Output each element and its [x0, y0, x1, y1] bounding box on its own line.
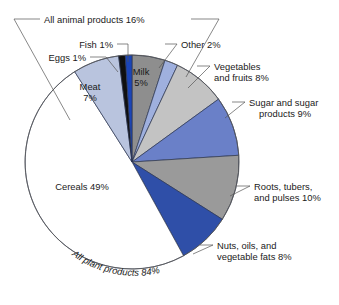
pie-chart-svg: All animal products 16% Eggs 1% Fish 1% … [0, 0, 339, 305]
label-sugar-line1: Sugar and sugar [249, 97, 318, 108]
label-nuts-line2: vegetable fats 8% [217, 251, 292, 262]
pie-slices-group [25, 55, 239, 269]
label-all-animal-products: All animal products 16% [44, 14, 145, 25]
label-fish: Fish 1% [79, 39, 113, 50]
label-milk-line1: Milk [133, 66, 150, 77]
label-meat-line2: 7% [83, 92, 97, 103]
label-vegetables-line1: Vegetables [214, 61, 261, 72]
label-vegetables-line2: and fruits 8% [214, 72, 269, 83]
label-nuts-line1: Nuts, oils, and [217, 240, 276, 251]
label-cereals: Cereals 49% [55, 181, 109, 192]
label-eggs: Eggs 1% [48, 52, 86, 63]
label-other: Other 2% [181, 39, 221, 50]
label-roots-line2: and pulses 10% [254, 192, 321, 203]
pie-chart-figure: All animal products 16% Eggs 1% Fish 1% … [0, 0, 339, 305]
label-sugar-line2: products 9% [259, 108, 311, 119]
label-meat-line1: Meat [80, 81, 101, 92]
leader-sugar [225, 102, 245, 118]
label-roots-line1: Roots, tubers, [254, 181, 312, 192]
label-milk-line2: 5% [134, 77, 148, 88]
